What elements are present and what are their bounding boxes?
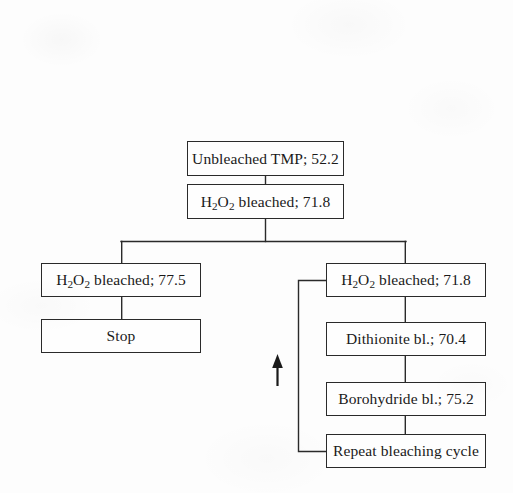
node-h2o2-bleached-first[interactable]: H2O2 bleached; 71.8 xyxy=(187,184,344,219)
node-stop-label: Stop xyxy=(107,328,136,344)
node-borohydride-bl[interactable]: Borohydride bl.; 75.2 xyxy=(326,382,486,416)
node-h2o2-bleached-left-label: H2O2 bleached; 77.5 xyxy=(56,272,186,288)
node-h2o2-bleached-first-label: H2O2 bleached; 71.8 xyxy=(201,194,331,210)
node-repeat-bleaching-cycle[interactable]: Repeat bleaching cycle xyxy=(326,434,486,468)
node-h2o2-bleached-right[interactable]: H2O2 bleached; 71.8 xyxy=(326,263,486,297)
diagram-canvas: Unbleached TMP; 52.2 H2O2 bleached; 71.8… xyxy=(0,0,513,493)
node-unbleached-tmp[interactable]: Unbleached TMP; 52.2 xyxy=(187,141,344,176)
node-h2o2-bleached-left[interactable]: H2O2 bleached; 77.5 xyxy=(41,263,201,297)
edge-repeat-loopback xyxy=(299,281,327,452)
cycle-direction-arrow xyxy=(272,354,283,386)
connector-lines xyxy=(0,0,513,493)
node-h2o2-bleached-right-label: H2O2 bleached; 71.8 xyxy=(341,272,471,288)
node-dithionite-bl[interactable]: Dithionite bl.; 70.4 xyxy=(326,322,486,356)
node-unbleached-tmp-label: Unbleached TMP; 52.2 xyxy=(192,151,339,167)
node-stop[interactable]: Stop xyxy=(41,319,201,353)
node-borohydride-bl-label: Borohydride bl.; 75.2 xyxy=(338,391,474,407)
node-repeat-bleaching-cycle-label: Repeat bleaching cycle xyxy=(333,443,479,459)
node-dithionite-bl-label: Dithionite bl.; 70.4 xyxy=(346,331,466,347)
